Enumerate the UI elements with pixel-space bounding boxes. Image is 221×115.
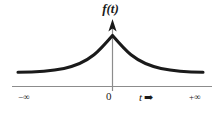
right-arrow-icon: ➡ <box>144 92 153 103</box>
exponential-decay-curve <box>18 36 203 73</box>
figure-container: f(t) −∞ 0 t ➡ +∞ <box>0 0 221 115</box>
negative-infinity-label: −∞ <box>18 93 30 102</box>
origin-label: 0 <box>106 91 112 102</box>
horizontal-axis-label: t ➡ <box>139 92 153 103</box>
vertical-axis-label: f(t) <box>0 2 221 15</box>
positive-infinity-label: +∞ <box>189 93 201 102</box>
horizontal-axis-variable: t <box>139 92 142 103</box>
